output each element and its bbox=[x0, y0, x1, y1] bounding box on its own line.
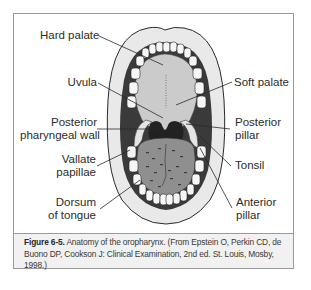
label-text: Vallate bbox=[30, 153, 96, 166]
label-text: Tonsil bbox=[235, 159, 264, 171]
label-text: Uvula bbox=[68, 76, 97, 88]
label-text: pillar bbox=[235, 129, 281, 142]
label-vallate-papillae: Vallate papillae bbox=[30, 153, 96, 179]
label-text: papillae bbox=[30, 166, 96, 179]
label-text: Posterior bbox=[235, 116, 281, 129]
label-text: Anterior bbox=[236, 196, 276, 209]
label-hard-palate: Hard palate bbox=[40, 29, 98, 42]
label-text: pharyngeal wall bbox=[20, 129, 97, 142]
label-dorsum-of-tongue: Dorsum of tongue bbox=[30, 196, 96, 222]
label-text: of tongue bbox=[30, 209, 96, 222]
label-soft-palate: Soft palate bbox=[234, 76, 289, 89]
label-posterior-pillar: Posterior pillar bbox=[235, 116, 281, 142]
figure-number: Figure 6-5. bbox=[24, 237, 65, 247]
label-posterior-pharyngeal-wall: Posterior pharyngeal wall bbox=[20, 116, 97, 142]
label-uvula: Uvula bbox=[40, 76, 97, 89]
label-text: pillar bbox=[236, 209, 276, 222]
label-tonsil: Tonsil bbox=[235, 159, 264, 172]
label-text: Soft palate bbox=[234, 76, 289, 88]
label-text: Dorsum bbox=[30, 196, 96, 209]
label-anterior-pillar: Anterior pillar bbox=[236, 196, 276, 222]
label-text: Posterior bbox=[20, 116, 97, 129]
figure-caption: Figure 6-5. Anatomy of the oropharynx. (… bbox=[13, 233, 294, 269]
label-text: Hard palate bbox=[40, 29, 99, 41]
